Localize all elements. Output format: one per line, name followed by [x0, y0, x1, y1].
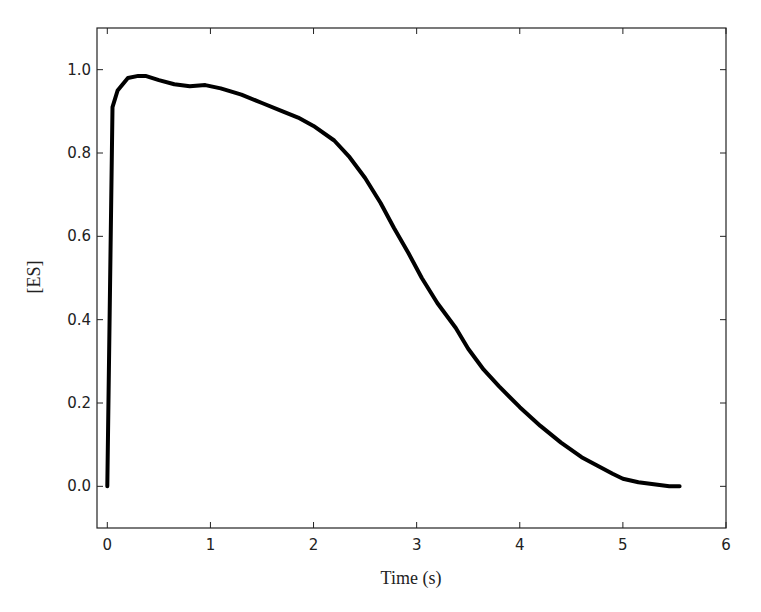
y-tick-label: 0.6	[67, 227, 91, 245]
es-series-line	[107, 76, 679, 486]
y-tick-label: 0.8	[67, 144, 91, 162]
data-line	[107, 76, 679, 486]
x-tick-label: 2	[309, 536, 319, 554]
y-tick-label: 0.2	[67, 394, 91, 412]
axes-frame	[97, 28, 726, 528]
x-axis-label: Time (s)	[381, 568, 442, 589]
chart: 0123456 0.00.20.40.60.81.0 Time (s) [ES]	[0, 0, 761, 612]
y-axis-label: [ES]	[24, 261, 44, 294]
y-tick-label: 1.0	[67, 61, 91, 79]
x-tick-label: 6	[721, 536, 731, 554]
x-tick-label: 0	[103, 536, 113, 554]
x-axis-ticks: 0123456	[103, 28, 731, 554]
x-tick-label: 3	[412, 536, 422, 554]
x-tick-label: 4	[515, 536, 525, 554]
x-tick-label: 5	[618, 536, 628, 554]
y-tick-label: 0.4	[67, 311, 91, 329]
x-tick-label: 1	[206, 536, 216, 554]
y-tick-label: 0.0	[67, 477, 91, 495]
y-axis-ticks: 0.00.20.40.60.81.0	[67, 61, 726, 496]
